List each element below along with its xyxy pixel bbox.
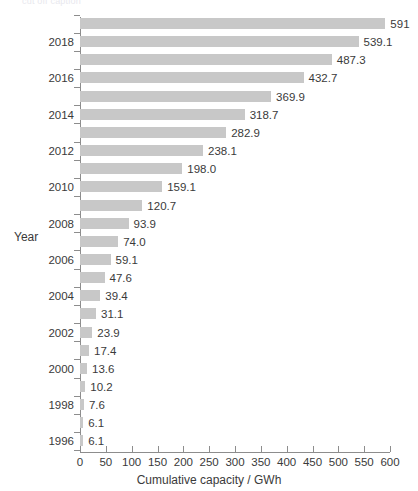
x-tick-mark: [313, 446, 314, 452]
bar: [80, 327, 92, 338]
y-tick-mark: [74, 378, 80, 379]
y-tick-label-2010: 2010: [30, 182, 74, 193]
bar-value-label: 13.6: [92, 364, 114, 375]
bar-value-label: 93.9: [134, 219, 156, 230]
bar-value-label: 369.9: [276, 92, 305, 103]
bar: [80, 36, 359, 47]
y-tick-mark: [74, 51, 80, 52]
y-tick-mark: [74, 33, 80, 34]
y-tick-mark: [74, 396, 80, 397]
y-tick-mark: [74, 69, 80, 70]
x-tick-mark: [338, 446, 339, 452]
bar-value-label: 159.1: [167, 182, 196, 193]
bar: [80, 91, 271, 102]
bar: [80, 381, 85, 392]
bar: [80, 54, 332, 65]
bar-value-label: 74.0: [123, 237, 145, 248]
bar: [80, 72, 304, 83]
x-tick-mark: [80, 446, 81, 452]
bar: [80, 435, 83, 446]
bar: [80, 399, 84, 410]
bar-value-label: 6.1: [88, 436, 104, 447]
x-tick-label-600: 600: [370, 456, 410, 468]
plot-area: 591539.1487.3432.7369.9318.7282.9238.119…: [0, 0, 418, 491]
y-tick-mark: [74, 178, 80, 179]
bar-value-label: 7.6: [89, 400, 105, 411]
bar: [80, 363, 87, 374]
bar: [80, 218, 129, 229]
bar-value-label: 31.1: [101, 309, 123, 320]
y-tick-mark: [74, 15, 80, 16]
y-tick-label-2004: 2004: [30, 291, 74, 302]
x-tick-mark: [106, 446, 107, 452]
x-tick-mark: [235, 446, 236, 452]
bar-value-label: 238.1: [208, 146, 237, 157]
bar-chart-figure: cut off caption 591539.1487.3432.7369.93…: [0, 0, 418, 491]
bar-value-label: 487.3: [337, 55, 366, 66]
y-tick-label-2006: 2006: [30, 255, 74, 266]
bar: [80, 272, 105, 283]
x-tick-mark: [390, 446, 391, 452]
x-tick-mark: [132, 446, 133, 452]
bar-value-label: 318.7: [250, 110, 279, 121]
bar: [80, 417, 83, 428]
y-tick-mark: [74, 359, 80, 360]
y-tick-mark: [74, 232, 80, 233]
y-tick-label-2014: 2014: [30, 110, 74, 121]
y-tick-label-2018: 2018: [30, 37, 74, 48]
x-tick-mark: [209, 446, 210, 452]
bar: [80, 145, 203, 156]
y-tick-mark: [74, 123, 80, 124]
bar-value-label: 17.4: [94, 346, 116, 357]
y-tick-mark: [74, 87, 80, 88]
y-tick-label-2002: 2002: [30, 328, 74, 339]
bar: [80, 181, 162, 192]
bar-value-label: 120.7: [147, 201, 176, 212]
x-tick-mark: [158, 446, 159, 452]
x-tick-mark: [183, 446, 184, 452]
bar: [80, 345, 89, 356]
bar-value-label: 432.7: [309, 73, 338, 84]
x-tick-mark: [287, 446, 288, 452]
bar: [80, 163, 182, 174]
y-tick-mark: [74, 414, 80, 415]
bar-value-label: 198.0: [187, 164, 216, 175]
bar-value-label: 47.6: [110, 273, 132, 284]
bar: [80, 109, 245, 120]
y-tick-mark: [74, 341, 80, 342]
bar: [80, 308, 96, 319]
x-axis-line: [80, 452, 390, 453]
x-tick-mark: [364, 446, 365, 452]
y-tick-mark: [74, 142, 80, 143]
bar-value-label: 10.2: [90, 382, 112, 393]
y-tick-label-1998: 1998: [30, 400, 74, 411]
bar: [80, 254, 111, 265]
y-tick-label-2016: 2016: [30, 73, 74, 84]
bar-value-label: 39.4: [105, 291, 127, 302]
y-tick-mark: [74, 250, 80, 251]
bar-value-label: 282.9: [231, 128, 260, 139]
y-tick-label-1996: 1996: [30, 436, 74, 447]
y-tick-label-2012: 2012: [30, 146, 74, 157]
x-axis-title: Cumulative capacity / GWh: [0, 473, 418, 487]
bar: [80, 127, 226, 138]
bar-value-label: 539.1: [364, 37, 393, 48]
y-tick-mark: [74, 160, 80, 161]
y-tick-mark: [74, 269, 80, 270]
y-tick-mark: [74, 214, 80, 215]
bar: [80, 200, 142, 211]
bar: [80, 236, 118, 247]
y-axis-title: Year: [14, 230, 38, 244]
y-tick-label-2008: 2008: [30, 219, 74, 230]
bar-value-label: 59.1: [116, 255, 138, 266]
y-tick-mark: [74, 105, 80, 106]
y-tick-mark: [74, 432, 80, 433]
y-tick-mark: [74, 323, 80, 324]
y-tick-mark: [74, 196, 80, 197]
bar-value-label: 6.1: [88, 418, 104, 429]
y-tick-mark: [74, 305, 80, 306]
y-tick-mark: [74, 287, 80, 288]
bar: [80, 290, 100, 301]
y-tick-label-2000: 2000: [30, 364, 74, 375]
bar-value-label: 591: [390, 19, 409, 30]
